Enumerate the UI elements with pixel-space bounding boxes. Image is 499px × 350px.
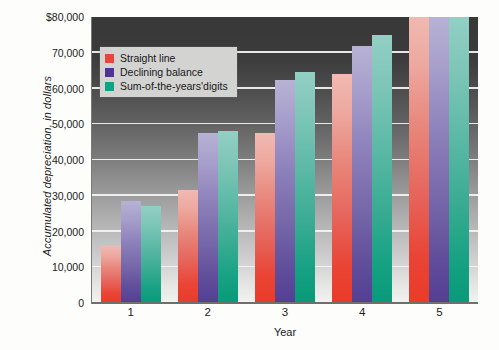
bar[interactable] <box>352 46 372 303</box>
legend-item-label: Sum-of-the-years'digits <box>120 81 228 92</box>
legend-item[interactable]: Straight line <box>105 51 228 65</box>
bar[interactable] <box>101 246 121 303</box>
bar-chart: Accumulated depreciation, in dollars 010… <box>0 0 499 350</box>
bar[interactable] <box>198 133 218 303</box>
bar-group <box>401 17 478 303</box>
bar[interactable] <box>372 35 392 303</box>
y-axis-tick-label: 70,000 <box>24 47 84 59</box>
bar[interactable] <box>178 190 198 303</box>
bar[interactable] <box>121 201 141 303</box>
bar[interactable] <box>255 133 275 303</box>
y-axis-tick-label: 60,000 <box>24 83 84 95</box>
y-axis-tick-label: $80,000 <box>24 11 84 23</box>
y-axis-tick-labels: 010,00020,00030,00040,00050,00060,00070,… <box>26 17 88 303</box>
bar[interactable] <box>218 131 238 303</box>
y-axis-tick-label: 10,000 <box>24 261 84 273</box>
y-axis-tick-label: 20,000 <box>24 226 84 238</box>
bar[interactable] <box>295 72 315 303</box>
chart-legend: Straight lineDeclining balanceSum-of-the… <box>100 47 237 97</box>
y-axis-tick-label: 50,000 <box>24 118 84 130</box>
x-axis-tick-label: 2 <box>178 306 238 318</box>
legend-item-label: Declining balance <box>120 67 203 78</box>
bar[interactable] <box>409 17 429 303</box>
bar-group <box>246 17 323 303</box>
x-axis-line <box>92 302 478 304</box>
bar[interactable] <box>429 17 449 303</box>
x-axis-title: Year <box>92 326 478 338</box>
legend-item-label: Straight line <box>120 53 175 64</box>
legend-swatch-icon <box>105 68 114 77</box>
x-axis-tick-label: 1 <box>101 306 161 318</box>
legend-swatch-icon <box>105 54 114 63</box>
x-axis-tick-label: 5 <box>409 306 469 318</box>
y-axis-tick-label: 30,000 <box>24 190 84 202</box>
x-axis-tick-label: 3 <box>255 306 315 318</box>
legend-item[interactable]: Sum-of-the-years'digits <box>105 79 228 93</box>
x-axis-tick-label: 4 <box>332 306 392 318</box>
legend-item[interactable]: Declining balance <box>105 65 228 79</box>
bar[interactable] <box>449 17 469 303</box>
x-axis-tick-labels: 12345 <box>92 306 478 328</box>
y-axis-tick-label: 40,000 <box>24 154 84 166</box>
bar[interactable] <box>332 74 352 303</box>
y-axis-tick-label: 0 <box>24 297 84 309</box>
bar-group <box>324 17 401 303</box>
bar[interactable] <box>275 80 295 303</box>
bar[interactable] <box>141 206 161 303</box>
legend-swatch-icon <box>105 82 114 91</box>
